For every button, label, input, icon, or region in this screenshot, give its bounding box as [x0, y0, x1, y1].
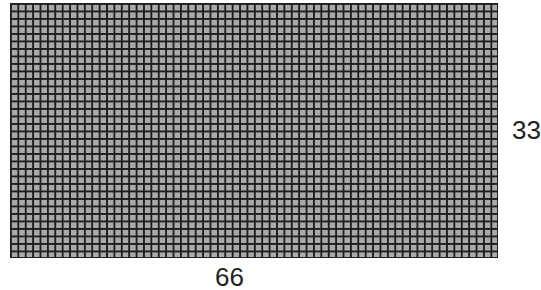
width-label: 66	[215, 264, 244, 290]
square-grid	[10, 3, 498, 258]
height-label: 33	[512, 117, 541, 143]
